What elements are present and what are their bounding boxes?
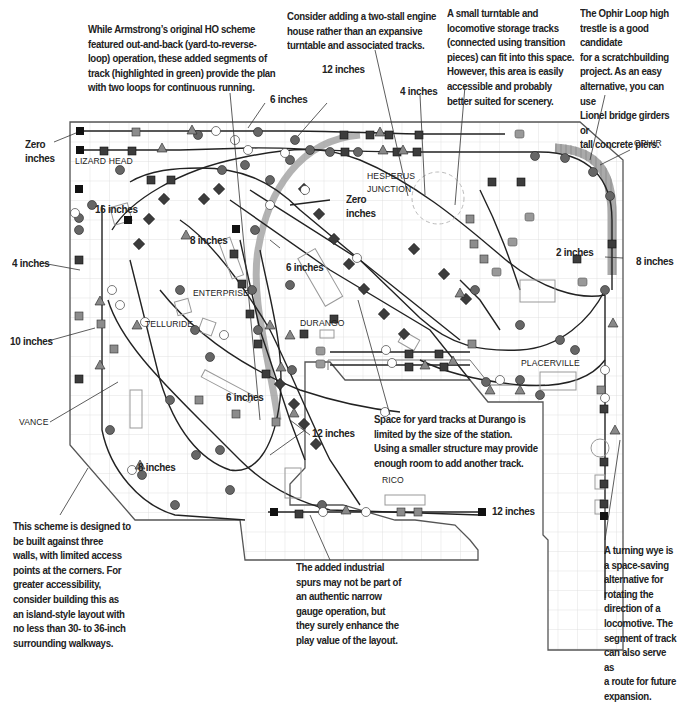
- callout-continuous-loops: While Armstrong’s original HO scheme fea…: [88, 22, 275, 95]
- elevation-label: 6 inches: [226, 390, 264, 404]
- callout-ophir-trestle: The Ophir Loop high trestle is a good ca…: [580, 6, 673, 152]
- elevation-label: Zero inches: [346, 192, 376, 220]
- elevation-label: 6 inches: [270, 92, 308, 106]
- elevation-label: 4 inches: [400, 84, 438, 98]
- elevation-label: 16 inches: [95, 202, 138, 216]
- elevation-label: 4 inches: [12, 256, 50, 270]
- elevation-label: 12 inches: [492, 504, 535, 518]
- elevation-label: 6 inches: [286, 260, 324, 274]
- callout-turntable: A small turntable and locomotive storage…: [447, 6, 574, 108]
- callout-engine-house: Consider adding a two-stall engine house…: [287, 9, 436, 53]
- callout-durango-yard: Space for yard tracks at Durango is limi…: [374, 412, 538, 470]
- callout-turning-wye: A turning wye is a space-saving alternat…: [604, 543, 676, 704]
- town-label-telluride: TELLURIDE: [145, 318, 193, 331]
- town-label-lizard-head: LIZARD HEAD: [75, 155, 133, 168]
- elevation-label: 8 inches: [190, 233, 228, 247]
- elevation-label: 12 inches: [322, 62, 365, 76]
- elevation-label: 8 inches: [138, 460, 176, 474]
- town-label-enterprise: ENTERPRISE: [193, 287, 249, 300]
- elevation-label: 8 inches: [636, 254, 674, 268]
- callout-three-walls: This scheme is designed to be built agai…: [13, 519, 131, 650]
- elevation-label: 2 inches: [556, 245, 594, 259]
- elevation-label: Zero inches: [25, 137, 55, 165]
- town-label-vance: VANCE: [19, 416, 48, 429]
- elevation-label: 10 inches: [10, 334, 53, 348]
- callout-industrial-spurs: The added industrial spurs may not be pa…: [296, 560, 401, 648]
- town-label-rico: RICO: [382, 474, 404, 487]
- town-label-placerville: PLACERVILLE: [521, 357, 580, 370]
- elevation-label: 12 inches: [312, 426, 355, 440]
- town-label-durango: DURANGO: [300, 317, 345, 330]
